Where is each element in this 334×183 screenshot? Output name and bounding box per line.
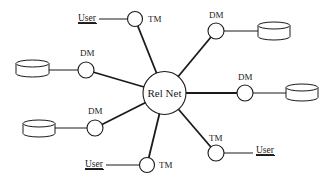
- user-label: User: [256, 145, 275, 155]
- tm-node-tm-bottom: [140, 158, 155, 173]
- tm-node-tm-top: [128, 12, 143, 27]
- dm-node-dm-top-left: [78, 62, 94, 78]
- database-icon: [258, 22, 290, 40]
- database-icon: [16, 60, 49, 77]
- tm-label: TM: [159, 160, 173, 170]
- database-icon: [23, 120, 55, 137]
- dm-node-dm-top-right: [208, 23, 224, 39]
- dm-label: DM: [238, 72, 253, 82]
- rel-net-label: Rel Net: [148, 87, 182, 99]
- dm-label: DM: [80, 48, 95, 58]
- rel-net-diagram: TMUserDMDMTMUserDMDMTMUser Rel Net: [0, 0, 334, 183]
- database-icon: [286, 84, 318, 101]
- tm-label: TM: [209, 133, 223, 143]
- tm-node-tm-bottom-right: [208, 145, 224, 161]
- dm-label: DM: [209, 10, 224, 20]
- dm-node-dm-right: [237, 85, 253, 101]
- dm-node-dm-bottom-left: [87, 120, 103, 136]
- tm-label: TM: [148, 14, 162, 24]
- rel-net-node: Rel Net: [143, 72, 186, 115]
- user-label: User: [78, 13, 97, 23]
- dm-label: DM: [88, 106, 103, 116]
- user-label: User: [85, 159, 104, 169]
